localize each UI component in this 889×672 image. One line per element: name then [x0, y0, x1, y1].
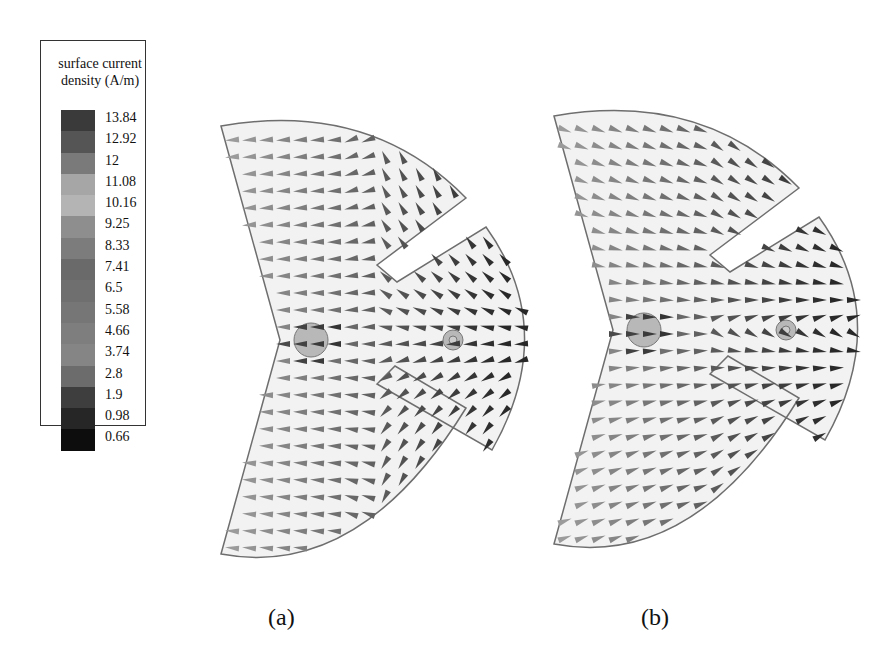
- panel-b-patch: [554, 111, 861, 548]
- patch-outline: [554, 111, 858, 548]
- patch-outline: [221, 121, 525, 558]
- panel-a-patch: [221, 121, 529, 558]
- caption-a: (a): [268, 604, 295, 631]
- panel-a-figure: [0, 0, 889, 672]
- caption-b: (b): [641, 604, 669, 631]
